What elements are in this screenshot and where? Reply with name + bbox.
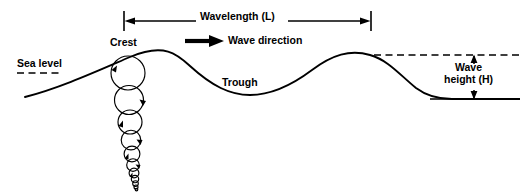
orbital-circles-group (111, 56, 145, 191)
trough-label: Trough (222, 77, 258, 89)
orbital-circle-5 (124, 146, 140, 162)
orbital-circle-1 (111, 56, 145, 90)
wavelength-right-arrowhead (360, 18, 371, 25)
wave-direction-label: Wave direction (228, 35, 302, 47)
wavelength-label: Wavelength (L) (200, 11, 275, 23)
wave-height-label-line2: height (H) (444, 73, 493, 85)
wave-height-label: Wave height (H) (444, 62, 493, 86)
sea-level-label: Sea level (17, 58, 62, 70)
wave-diagram-graphics (0, 0, 520, 196)
wave-direction-arrowhead (209, 35, 224, 47)
wave-diagram: Wavelength (L) Wave direction Crest Sea … (0, 0, 520, 196)
wave-height-label-line1: Wave (455, 61, 482, 73)
wavelength-left-arrowhead (125, 18, 136, 25)
crest-label: Crest (110, 37, 137, 49)
wave-direction-arrow (185, 35, 224, 47)
orbit-arrowhead-2 (140, 100, 147, 107)
